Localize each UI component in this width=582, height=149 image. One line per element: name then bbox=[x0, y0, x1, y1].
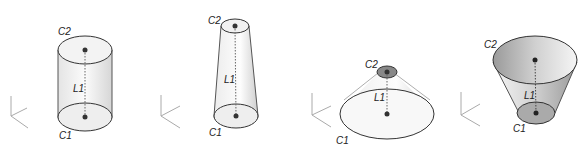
label-c2: C2 bbox=[58, 26, 71, 37]
label-l1: L1 bbox=[524, 90, 535, 101]
diagram-canvas: C2 L1 C1 C2 L1 C1 C2 L1 C1 C2 L1 C1 bbox=[0, 0, 582, 149]
figure-cone-frustum: C2 L1 C1 bbox=[312, 59, 434, 146]
label-l1: L1 bbox=[374, 92, 385, 103]
axes-icon bbox=[161, 95, 180, 128]
label-c1: C1 bbox=[336, 135, 349, 146]
axes-icon bbox=[461, 92, 480, 126]
figure-tapered-cylinder: C2 L1 C1 bbox=[161, 15, 258, 138]
label-c2: C2 bbox=[208, 15, 221, 26]
figure-inverted-frustum: C2 L1 C1 bbox=[461, 36, 577, 134]
label-c1: C1 bbox=[59, 130, 72, 141]
label-l1: L1 bbox=[73, 83, 84, 94]
label-c2: C2 bbox=[484, 39, 497, 50]
label-c1: C1 bbox=[513, 123, 526, 134]
axes-icon bbox=[312, 93, 331, 127]
label-c2: C2 bbox=[365, 59, 378, 70]
label-l1: L1 bbox=[224, 74, 235, 85]
axes-icon bbox=[11, 96, 28, 128]
label-c1: C1 bbox=[209, 127, 222, 138]
figure-cylinder: C2 L1 C1 bbox=[11, 26, 112, 141]
